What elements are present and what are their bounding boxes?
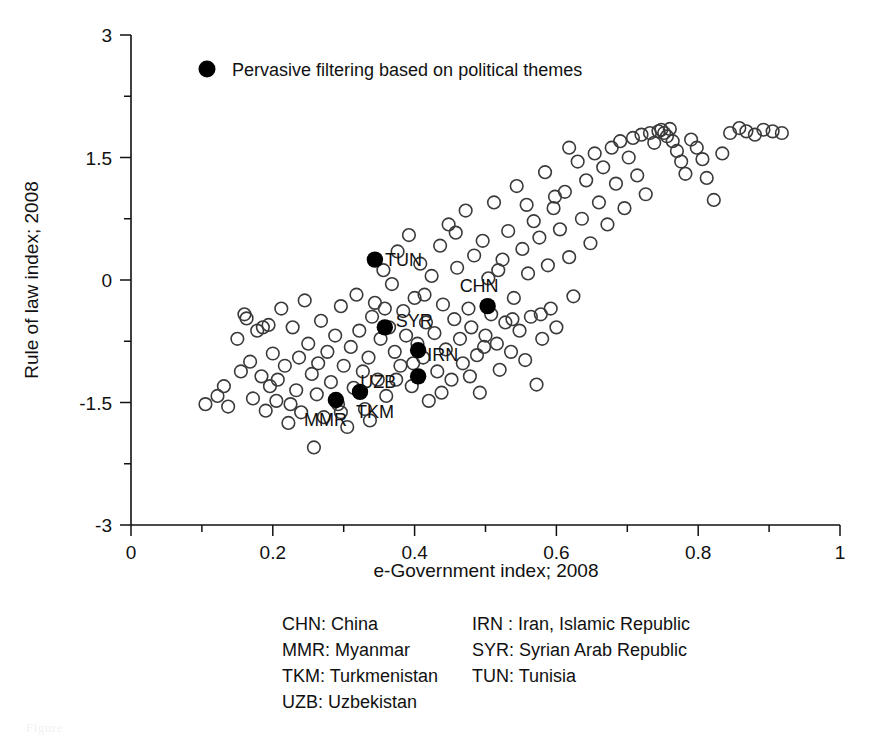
data-point (388, 346, 401, 359)
data-point (459, 204, 472, 217)
y-tick-label: 1.5 (86, 148, 112, 169)
data-point (337, 359, 350, 372)
highlighted-data-point (328, 392, 344, 408)
data-point (471, 349, 484, 362)
abbreviation-entry: MMR: Myanmar (282, 640, 410, 660)
data-point (247, 392, 260, 405)
data-point (270, 395, 283, 408)
data-point (571, 155, 584, 168)
data-point (707, 194, 720, 207)
abbreviation-entry: TUN: Tunisia (472, 666, 577, 686)
data-point (403, 229, 416, 242)
data-point (312, 357, 325, 370)
data-point (635, 128, 648, 141)
data-point (506, 313, 519, 326)
data-point (554, 223, 567, 236)
data-point (716, 147, 729, 160)
data-point (530, 378, 543, 391)
abbreviation-entry: UZB: Uzbekistan (282, 692, 417, 712)
data-point (386, 278, 399, 291)
data-point (264, 380, 277, 393)
x-axis-minor-ticks (202, 525, 769, 532)
data-point (379, 302, 392, 315)
y-tick-label: -1.5 (79, 393, 112, 414)
data-point (321, 346, 334, 359)
y-tick-label: -3 (95, 515, 112, 536)
data-point (394, 359, 407, 372)
data-point (407, 357, 420, 370)
data-point (618, 202, 631, 215)
data-point (536, 333, 549, 346)
data-point (547, 202, 560, 215)
data-point (505, 346, 518, 359)
data-point (478, 341, 491, 354)
x-tick-label: 0 (126, 542, 137, 563)
point-label-uzb: UZB (360, 372, 396, 392)
data-point (282, 417, 295, 430)
data-point (550, 321, 563, 334)
data-point (493, 364, 506, 377)
data-point (310, 388, 323, 401)
data-point (431, 365, 444, 378)
data-point (622, 151, 635, 164)
figure-root: -3-1.501.53 00.20.40.60.81 TUNCHNSYRIRNU… (0, 0, 869, 738)
highlighted-data-point (479, 298, 495, 314)
data-point (476, 235, 489, 248)
data-point (362, 351, 375, 364)
data-point (776, 127, 789, 140)
data-point (588, 147, 601, 160)
data-point (315, 315, 328, 328)
data-point (492, 264, 505, 277)
data-point (235, 365, 248, 378)
data-point (567, 290, 580, 303)
data-point (614, 135, 627, 148)
data-point (508, 292, 521, 305)
x-tick-label: 0.8 (685, 542, 711, 563)
data-point (563, 141, 576, 154)
y-tick-label: 3 (101, 25, 112, 46)
data-point (435, 386, 448, 399)
data-point (451, 261, 464, 274)
point-label-tkm: TKM (356, 402, 394, 422)
legend: Pervasive filtering based on political t… (199, 60, 583, 80)
data-point (279, 359, 292, 372)
data-point (271, 373, 284, 386)
highlighted-data-point (377, 319, 393, 335)
data-point (516, 243, 529, 256)
data-point (244, 355, 257, 368)
data-point (290, 384, 303, 397)
data-point (584, 237, 597, 250)
y-axis-tick-labels: -3-1.501.53 (79, 25, 112, 536)
data-point (522, 267, 535, 280)
x-axis-title: e-Government index; 2008 (374, 560, 599, 581)
data-point (448, 313, 461, 326)
data-point (366, 310, 379, 323)
data-point (520, 199, 533, 212)
data-point (675, 155, 688, 168)
data-point (329, 329, 342, 342)
data-point (610, 177, 623, 190)
data-point (218, 380, 231, 393)
data-point (445, 373, 458, 386)
abbreviation-entry: IRN : Iran, Islamic Republic (472, 614, 690, 634)
x-tick-label: 0.2 (260, 542, 286, 563)
data-point (240, 312, 253, 325)
data-point (700, 172, 713, 185)
data-point (502, 225, 515, 238)
highlighted-data-point (410, 368, 426, 384)
data-point (462, 302, 475, 315)
data-point (479, 329, 492, 342)
data-point (631, 169, 644, 182)
data-point (605, 141, 618, 154)
figure-caption-fragment: Figure (26, 720, 63, 736)
data-point (563, 251, 576, 264)
data-point (259, 404, 272, 417)
data-point (267, 347, 280, 360)
highlighted-data-point (367, 251, 383, 267)
data-point (454, 333, 467, 346)
data-point (222, 400, 235, 413)
data-point (457, 357, 470, 370)
data-point (580, 174, 593, 187)
data-point (679, 168, 692, 181)
y-axis-ticks (120, 35, 131, 525)
